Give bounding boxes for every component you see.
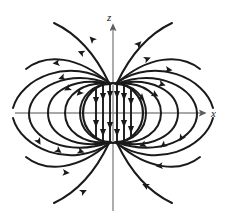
internal-arrow-6a <box>128 98 134 105</box>
arrowhead-left-5 <box>77 48 86 57</box>
internal-arrow-4a <box>114 91 120 98</box>
field-line-right-7 <box>117 23 172 83</box>
axes-group: z x <box>15 11 216 211</box>
field-diagram-svg: z x <box>0 0 227 217</box>
arrowhead-right-8 <box>158 141 168 151</box>
field-line-right-9 <box>117 143 172 203</box>
arrowhead-left-6 <box>87 34 97 44</box>
internal-arrow-5a <box>121 93 127 100</box>
internal-arrow-2a <box>100 93 106 100</box>
arrowhead-left-4 <box>52 59 60 67</box>
arrowhead-left-11 <box>79 187 88 196</box>
internal-arrow-5b <box>121 120 127 127</box>
internal-arrow-1a <box>93 97 99 104</box>
internal-arrow-6b <box>128 126 134 133</box>
internal-arrow-3a <box>107 91 113 98</box>
field-diagram-figure: z x <box>0 0 227 217</box>
internal-arrow-2b <box>100 129 106 136</box>
internal-arrow-1b <box>93 120 99 127</box>
arrowhead-left-10 <box>62 169 70 176</box>
z-axis-label: z <box>106 11 112 23</box>
internal-arrow-3b <box>107 122 113 129</box>
arrowhead-left-1 <box>74 88 84 98</box>
internal-arrow-4b <box>114 129 120 136</box>
